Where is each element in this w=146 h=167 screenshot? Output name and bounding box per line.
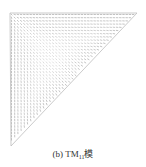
caption-mode: TM — [65, 149, 79, 159]
caption-label: (b) — [53, 149, 64, 159]
triangle-boundary — [10, 13, 137, 146]
field-plot — [0, 0, 146, 150]
field-arrows — [11, 14, 135, 141]
figure-caption: (b) TM11模 — [0, 148, 146, 163]
caption-suffix: 模 — [84, 149, 93, 159]
